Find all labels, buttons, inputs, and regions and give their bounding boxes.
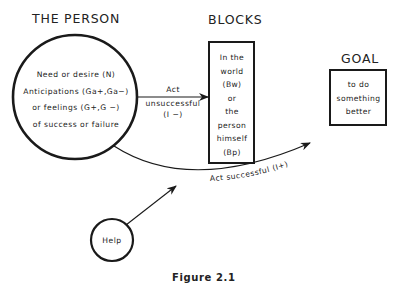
- blocks-line: the: [210, 105, 254, 119]
- goal-line: to do: [331, 78, 386, 92]
- blocks-line: person: [210, 119, 254, 133]
- blocks-text: In the world (Bw) or the person himself …: [210, 51, 254, 159]
- blocks-line: or: [210, 92, 254, 106]
- unsuccessful-label-code: (I −): [138, 110, 208, 119]
- person-text: Need or desire (N) Anticipations (Ga+,Ga…: [16, 67, 136, 133]
- person-line-need: Need or desire (N): [16, 67, 136, 84]
- help-label: Help: [91, 236, 133, 245]
- person-line-success-failure: of success or failure: [16, 117, 136, 134]
- blocks-line: (Bp): [210, 146, 254, 160]
- help-arrow: [126, 186, 176, 225]
- blocks-line: (Bw): [210, 78, 254, 92]
- blocks-line: world: [210, 65, 254, 79]
- unsuccessful-label-word: unsuccessful: [136, 99, 210, 108]
- blocks-line: In the: [210, 51, 254, 65]
- person-line-anticipations: Anticipations (Ga+,Ga−): [16, 84, 136, 101]
- blocks-line: himself: [210, 132, 254, 146]
- unsuccessful-label-act: Act: [138, 85, 208, 94]
- goal-text: to do something better: [331, 78, 386, 119]
- blocks-title: BLOCKS: [208, 12, 263, 27]
- goal-title: GOAL: [341, 51, 379, 66]
- person-line-feelings: or feelings (G+,G −): [16, 100, 136, 117]
- goal-line: something: [331, 92, 386, 106]
- goal-line: better: [331, 105, 386, 119]
- person-title: THE PERSON: [32, 11, 120, 26]
- figure-caption: Figure 2.1: [172, 272, 235, 283]
